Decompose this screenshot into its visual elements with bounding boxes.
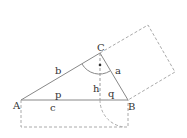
diagram-canvas: A B C a b c h p q — [0, 0, 187, 138]
label-A: A — [12, 100, 21, 111]
label-q: q — [108, 88, 115, 99]
label-B: B — [128, 101, 135, 112]
label-c: c — [50, 102, 56, 113]
label-C: C — [97, 42, 105, 53]
right-angle-dot — [99, 64, 102, 67]
arc-q — [100, 100, 124, 127]
right-angle-arc — [82, 64, 110, 74]
label-b: b — [55, 65, 61, 76]
label-p: p — [55, 89, 61, 100]
label-a: a — [115, 65, 121, 76]
label-h: h — [93, 83, 100, 94]
